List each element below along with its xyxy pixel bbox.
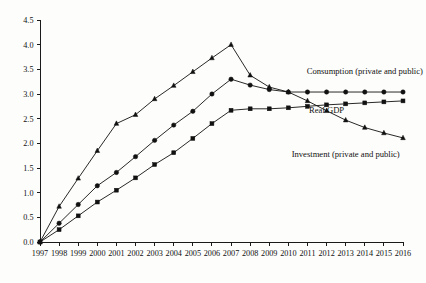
series-circle: [38, 77, 405, 244]
data-point: [152, 96, 157, 100]
x-axis-ticks: 1997199819992000200120022003200420052006…: [32, 242, 411, 258]
data-point: [248, 83, 252, 87]
data-point: [133, 154, 137, 158]
x-tick-label: 2014: [357, 249, 373, 258]
data-point: [210, 122, 214, 126]
data-point: [57, 228, 61, 232]
x-tick-label: 2011: [299, 249, 315, 258]
data-point: [191, 136, 195, 140]
y-axis-ticks: 0.00.51.01.52.02.53.03.54.04.5: [23, 16, 40, 247]
data-point: [171, 83, 176, 87]
data-point: [191, 69, 196, 73]
series-label-triangle: Investment (private and public): [292, 149, 400, 159]
data-point: [210, 92, 214, 96]
series-label-square: Real GDP: [309, 105, 344, 115]
data-point: [363, 101, 367, 105]
y-tick-label: 0.0: [23, 238, 33, 247]
data-point: [286, 90, 290, 94]
data-point: [401, 99, 405, 103]
data-point: [382, 90, 386, 94]
x-tick-label: 2016: [395, 249, 411, 258]
x-tick-label: 2005: [185, 249, 201, 258]
series-square: [38, 99, 405, 244]
data-point: [95, 200, 99, 204]
data-point: [324, 90, 328, 94]
data-point: [343, 90, 347, 94]
x-tick-label: 2006: [204, 249, 220, 258]
data-point: [382, 100, 386, 104]
data-point: [305, 90, 309, 94]
x-tick-label: 2009: [261, 249, 277, 258]
series-label-circle: Consumption (private and public): [307, 66, 423, 76]
chart-container: 0.00.51.01.52.02.53.03.54.04.5 199719981…: [0, 0, 426, 283]
y-tick-label: 1.0: [23, 189, 33, 198]
data-point: [172, 151, 176, 155]
y-tick-label: 0.5: [23, 213, 33, 222]
x-tick-label: 2007: [223, 249, 239, 258]
data-point: [267, 87, 271, 91]
data-point: [38, 240, 42, 244]
y-tick-label: 2.5: [23, 115, 33, 124]
data-point: [344, 102, 348, 106]
data-point: [152, 138, 156, 142]
series-line-square: [40, 101, 403, 242]
data-point: [57, 221, 61, 225]
data-point: [153, 163, 157, 167]
x-tick-label: 2008: [242, 249, 258, 258]
data-point: [76, 214, 80, 218]
x-tick-label: 2003: [146, 249, 162, 258]
x-tick-label: 2010: [280, 249, 296, 258]
x-tick-label: 1997: [32, 249, 48, 258]
x-tick-label: 2000: [89, 249, 105, 258]
data-point: [229, 42, 234, 46]
data-point: [248, 107, 252, 111]
y-tick-label: 4.5: [23, 16, 33, 25]
data-point: [114, 188, 118, 192]
data-point: [191, 109, 195, 113]
series-annotations: Investment (private and public)Consumpti…: [292, 66, 423, 159]
data-point: [76, 202, 80, 206]
x-tick-label: 1999: [70, 249, 86, 258]
x-tick-label: 2013: [337, 249, 353, 258]
data-point: [133, 112, 138, 116]
data-point: [172, 123, 176, 127]
x-tick-label: 2004: [166, 249, 182, 258]
data-point: [95, 184, 99, 188]
x-tick-label: 2012: [318, 249, 334, 258]
y-tick-label: 3.0: [23, 90, 33, 99]
line-chart-plot: 0.00.51.01.52.02.53.03.54.04.5 199719981…: [0, 0, 426, 283]
data-point: [134, 176, 138, 180]
data-point: [210, 55, 215, 59]
y-tick-label: 3.5: [23, 65, 33, 74]
x-tick-label: 1998: [51, 249, 67, 258]
y-tick-label: 4.0: [23, 41, 33, 50]
data-point: [114, 170, 118, 174]
y-tick-label: 1.5: [23, 164, 33, 173]
data-point: [286, 106, 290, 110]
data-point: [363, 90, 367, 94]
x-tick-label: 2015: [376, 249, 392, 258]
y-tick-label: 2.0: [23, 139, 33, 148]
chart-axes: [40, 20, 403, 242]
data-point: [401, 90, 405, 94]
data-point: [229, 77, 233, 81]
data-point: [229, 108, 233, 112]
x-tick-label: 2002: [127, 249, 143, 258]
data-point: [267, 107, 271, 111]
x-tick-label: 2001: [108, 249, 124, 258]
